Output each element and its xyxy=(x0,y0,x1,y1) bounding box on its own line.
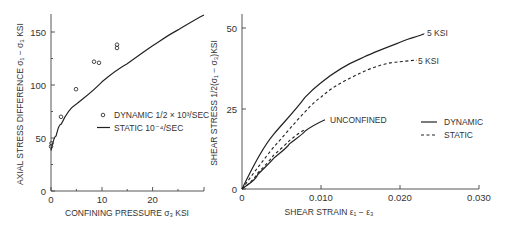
left-y-ticks xyxy=(51,32,55,191)
right-x-ticks xyxy=(321,185,400,189)
legend-dynamic-label: DYNAMIC 1/2 × 10³/SEC xyxy=(114,110,209,120)
legend-circle-icon xyxy=(101,113,105,117)
right-chart: 0 25 50 0 0.010 0.020 0.030 SHEAR STRAIN… xyxy=(209,14,491,217)
dynamic-points xyxy=(49,43,119,148)
figure: 0 50 100 150 0 10 20 CONFINING PRESSURE … xyxy=(0,0,506,234)
right-x-label: SHEAR STRAIN ε₁ − ε₃ xyxy=(285,207,374,217)
left-x-label: CONFINING PRESSURE σ₃ KSI xyxy=(65,208,189,218)
dynamic-5ksi-curve xyxy=(242,34,424,190)
right-xtick-0010: 0.010 xyxy=(309,192,333,203)
left-ytick-50: 50 xyxy=(35,133,46,144)
right-y-ticks xyxy=(242,28,246,189)
left-ytick-0: 0 xyxy=(41,186,46,197)
legend-static-label: STATIC 10⁻⁴/SEC xyxy=(114,123,183,133)
dynamic-unconfined-curve xyxy=(242,120,325,189)
left-xtick-20: 20 xyxy=(147,194,158,205)
left-xtick-10: 10 xyxy=(97,194,108,205)
left-ytick-100: 100 xyxy=(30,80,46,91)
right-xtick-0: 0 xyxy=(239,192,244,203)
legend-dynamic-label: DYNAMIC xyxy=(444,117,483,127)
right-y-label: SHEAR STRESS 1/2(σ₁ − σ₃)KSI xyxy=(209,40,219,166)
right-legend: DYNAMIC STATIC xyxy=(421,117,483,140)
left-x-ticks xyxy=(51,187,178,191)
left-y-label: AXIAL STRESS DIFFERENCE σ₁ − σ₃ KSI xyxy=(15,23,25,185)
right-xtick-0020: 0.020 xyxy=(388,192,412,203)
left-xtick-0: 0 xyxy=(48,194,53,205)
annotation-unconfined: UNCONFINED xyxy=(330,115,387,125)
right-x-axis xyxy=(242,185,479,189)
right-ytick-50: 50 xyxy=(226,23,237,34)
right-ytick-0: 0 xyxy=(232,184,237,195)
right-xtick-0030: 0.030 xyxy=(467,192,491,203)
right-ytick-25: 25 xyxy=(226,104,237,115)
left-legend: DYNAMIC 1/2 × 10³/SEC STATIC 10⁻⁴/SEC xyxy=(97,110,209,133)
annotation-static-5ksi: 5 KSI xyxy=(418,56,439,66)
annotation-dynamic-5ksi: 5 KSI xyxy=(427,28,448,38)
left-ytick-150: 150 xyxy=(30,27,46,38)
left-chart: 0 50 100 150 0 10 20 CONFINING PRESSURE … xyxy=(15,14,209,218)
legend-static-label: STATIC xyxy=(444,130,473,140)
